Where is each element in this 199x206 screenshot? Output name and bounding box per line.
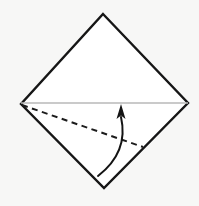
origami-figure [0,0,199,206]
origami-diagram-canvas [0,0,199,206]
